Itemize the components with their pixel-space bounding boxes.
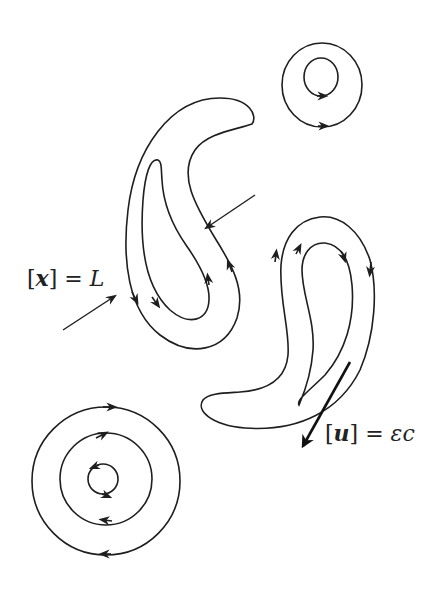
arrow-icon (275, 254, 276, 262)
arrow-icon (104, 520, 112, 521)
length-pointer-arrow (63, 296, 115, 330)
velocity-scale-label: [u] = εc (325, 420, 415, 446)
arrow-icon (370, 262, 371, 272)
arrow-icon (94, 465, 99, 467)
circular-vortex-bottom-left (32, 407, 180, 555)
vortex-diagram (0, 0, 444, 598)
comma-vortex-left (126, 98, 254, 349)
arrow-icon (342, 252, 344, 258)
small-vortex-top-right (282, 43, 362, 127)
arrow-icon (296, 248, 299, 254)
arrow-icon (208, 278, 209, 285)
width-pointer-arrow (206, 195, 255, 228)
comma-vortex-right (201, 217, 374, 429)
arrow-icon (152, 297, 157, 304)
length-scale-label: [x] = L (27, 265, 104, 291)
